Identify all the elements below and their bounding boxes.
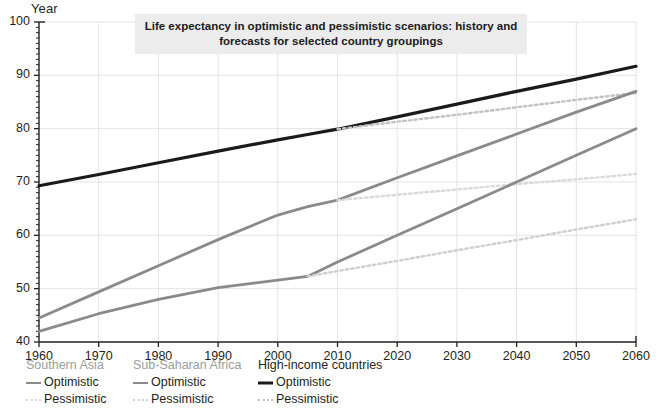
- y-tick-label: 40: [2, 334, 30, 348]
- y-tick-label: 90: [2, 67, 30, 81]
- legend-group-1: Southern AsiaOptimisticPessimistic: [26, 358, 107, 408]
- legend-line-swatch-icon: [133, 378, 148, 388]
- legend-group-title: Southern Asia: [26, 358, 107, 373]
- legend-item-optimistic[interactable]: Optimistic: [26, 374, 107, 391]
- legend-item-label: Optimistic: [44, 375, 99, 390]
- legend-line-swatch-icon: [133, 395, 148, 405]
- chart-legend: Southern AsiaOptimisticPessimisticSub-Sa…: [0, 358, 661, 413]
- legend-line-swatch-icon: [258, 378, 273, 388]
- life-expectancy-chart: Year 405060708090100 1960197019801990200…: [0, 0, 661, 413]
- legend-item-label: Optimistic: [151, 375, 206, 390]
- legend-line-swatch-icon: [26, 395, 41, 405]
- legend-item-optimistic[interactable]: Optimistic: [258, 374, 382, 391]
- y-tick-label: 60: [2, 227, 30, 241]
- chart-title: Life expectancy in optimistic and pessim…: [135, 14, 527, 54]
- legend-item-pessimistic[interactable]: Pessimistic: [258, 391, 382, 408]
- y-tick-label: 80: [2, 121, 30, 135]
- legend-item-pessimistic[interactable]: Pessimistic: [133, 391, 241, 408]
- legend-item-label: Pessimistic: [276, 392, 339, 407]
- y-tick-label: 50: [2, 281, 30, 295]
- legend-item-label: Pessimistic: [151, 392, 214, 407]
- legend-item-label: Pessimistic: [44, 392, 107, 407]
- legend-item-optimistic[interactable]: Optimistic: [133, 374, 241, 391]
- legend-group-title: Sub-Saharan Africa: [133, 358, 241, 373]
- axis-ticks: [34, 22, 636, 347]
- y-tick-label: 70: [2, 174, 30, 188]
- legend-item-pessimistic[interactable]: Pessimistic: [26, 391, 107, 408]
- legend-group-title: High-income countries: [258, 358, 382, 373]
- legend-group-2: Sub-Saharan AfricaOptimisticPessimistic: [133, 358, 241, 408]
- legend-line-swatch-icon: [258, 395, 273, 405]
- y-tick-label: 100: [2, 14, 30, 28]
- legend-item-label: Optimistic: [276, 375, 331, 390]
- legend-line-swatch-icon: [26, 378, 41, 388]
- legend-group-3: High-income countriesOptimisticPessimist…: [258, 358, 382, 408]
